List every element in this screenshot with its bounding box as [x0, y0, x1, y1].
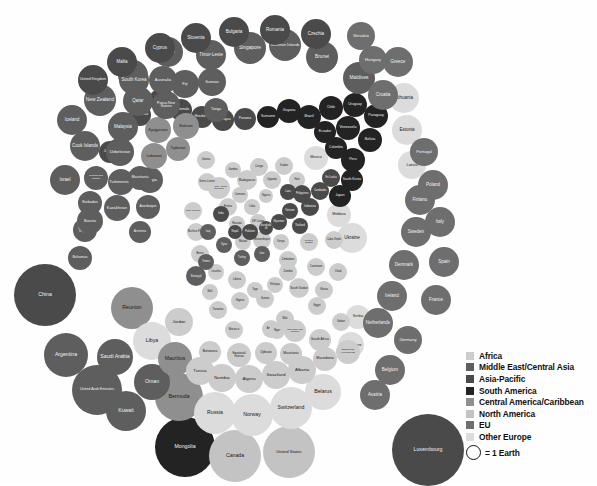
bubble-united-kingdom[interactable]: United Kingdom: [78, 65, 108, 95]
bubble-south-korea[interactable]: South Korea: [341, 169, 363, 191]
bubble-papua-new-guinea[interactable]: Papua New Guinea: [152, 91, 180, 119]
bubble-zimbabwe[interactable]: Zimbabwe: [279, 251, 297, 269]
bubble-armenia[interactable]: Armenia: [129, 221, 151, 243]
bubble-mali[interactable]: Mali: [202, 284, 218, 300]
bubble-spain[interactable]: Spain: [429, 247, 459, 277]
bubble-swaziland[interactable]: Swaziland: [262, 361, 290, 389]
bubble-cyprus[interactable]: Cyprus: [145, 33, 175, 63]
bubble-botswana[interactable]: Botswana: [199, 341, 221, 363]
bubble-austria[interactable]: Austria: [360, 380, 390, 410]
bubble-kenya[interactable]: Kenya: [273, 234, 289, 250]
bubble-chad[interactable]: Chad: [329, 263, 347, 281]
bubble-slovakia[interactable]: Slovakia: [347, 22, 375, 50]
bubble-norway[interactable]: Norway: [231, 394, 273, 436]
bubble-malta[interactable]: Malta: [107, 47, 137, 77]
bubble-cabo-verde[interactable]: Cabo Verde: [325, 231, 343, 249]
bubble-mauritania[interactable]: Mauritania: [280, 343, 302, 365]
bubble-portugal[interactable]: Portugal: [410, 138, 438, 166]
bubble-morocco[interactable]: Morocco: [225, 321, 243, 339]
bubble-congo[interactable]: Congo: [250, 158, 268, 176]
bubble-panama[interactable]: Panama: [234, 108, 256, 130]
bubble-thailand[interactable]: Thailand: [292, 218, 308, 234]
bubble-guinea[interactable]: Guinea: [256, 290, 274, 308]
bubble-algeria[interactable]: Algeria: [235, 365, 263, 393]
bubble-tanzania[interactable]: Tanzania: [209, 301, 227, 319]
bubble-guyana[interactable]: Guyana: [277, 99, 301, 123]
bubble-kazakhstan[interactable]: Kazakhstan: [104, 195, 130, 221]
bubble-saudi-arabia[interactable]: Saudi Arabia: [97, 339, 133, 375]
legend-row-eu[interactable]: EU: [466, 420, 594, 432]
bubble-gabon[interactable]: Gabon: [332, 313, 350, 331]
bubble-bahrain[interactable]: Bahrain: [173, 113, 199, 139]
bubble-egypt[interactable]: Egypt: [308, 297, 326, 315]
bubble-israel[interactable]: Israel: [50, 165, 80, 195]
legend-row-otheur[interactable]: Other Europe: [466, 431, 594, 443]
bubble-south-africa[interactable]: South Africa: [309, 329, 331, 351]
bubble-sao-tome-and-principe[interactable]: Sao Tome and Principe: [284, 320, 306, 342]
bubble-china[interactable]: China: [14, 264, 76, 326]
bubble-chile[interactable]: Chile: [319, 96, 343, 120]
bubble-samoa[interactable]: Samoa: [198, 68, 226, 96]
bubble-guinea-bissau[interactable]: Guinea-Bissau: [300, 233, 318, 251]
bubble-tonga[interactable]: Tonga: [204, 98, 228, 122]
bubble-uganda[interactable]: Uganda: [263, 171, 281, 189]
bubble-vietnam[interactable]: Vietnam: [282, 203, 298, 219]
bubble-slovenia[interactable]: Slovenia: [181, 23, 211, 53]
bubble-cuba[interactable]: Cuba: [244, 199, 260, 215]
bubble-djibouti[interactable]: Djibouti: [255, 342, 277, 364]
bubble-poland[interactable]: Poland: [418, 170, 448, 200]
bubble-bolivia[interactable]: Bolivia: [358, 128, 382, 152]
bubble-cook-islands[interactable]: Cook Islands: [70, 131, 100, 161]
bubble-namibia[interactable]: Namibia: [208, 364, 236, 392]
bubble-canada[interactable]: Canada: [209, 430, 261, 482]
bubble-uruguay[interactable]: Uruguay: [343, 93, 367, 117]
bubble-russia[interactable]: Russia: [194, 392, 236, 434]
legend-row-asiapac[interactable]: Asia-Pacific: [466, 373, 594, 385]
bubble-gambia[interactable]: Gambia: [225, 162, 241, 178]
bubble-france[interactable]: France: [421, 285, 451, 315]
bubble-luxembourg[interactable]: Luxembourg: [392, 414, 464, 486]
bubble-cameroon[interactable]: Cameroon: [307, 258, 325, 276]
bubble-lebanon[interactable]: Lebanon: [141, 143, 167, 169]
bubble-ethiopia[interactable]: Ethiopia: [267, 277, 283, 293]
bubble-yemen[interactable]: Yemen: [198, 254, 214, 270]
bubble-ireland[interactable]: Ireland: [377, 281, 407, 311]
legend-row-centam[interactable]: Central America/Caribbean: [466, 396, 594, 408]
bubble-guinea[interactable]: Guinea: [197, 151, 215, 169]
bubble-greece[interactable]: Greece: [383, 47, 413, 77]
bubble-kuwait[interactable]: Kuwait: [106, 391, 146, 431]
bubble-liberia[interactable]: Liberia: [228, 271, 246, 289]
bubble-niger[interactable]: Niger: [269, 323, 285, 339]
legend-row-northam[interactable]: North America: [466, 408, 594, 420]
bubble-cote-d-ivoire[interactable]: Cote d'Ivoire: [184, 202, 202, 220]
bubble-italy[interactable]: Italy: [425, 207, 455, 237]
bubble-iran[interactable]: Iran: [254, 246, 270, 262]
bubble-azerbaijan[interactable]: Azerbaijan: [136, 195, 160, 219]
bubble-south-sudan[interactable]: South Sudan: [289, 278, 309, 298]
bubble-netherlands[interactable]: Netherlands: [363, 308, 393, 338]
bubble-tajikistan[interactable]: Tajikistan: [166, 137, 190, 161]
bubble-pakistan[interactable]: Pakistan: [242, 224, 258, 240]
bubble-syria[interactable]: Syria: [216, 237, 232, 253]
bubble-czechia[interactable]: Czechia: [301, 19, 331, 49]
bubble-nigeria[interactable]: Nigeria: [231, 292, 249, 310]
bubble-sierra-leone[interactable]: Sierra Leone: [198, 173, 216, 191]
bubble-laos[interactable]: Laos: [280, 184, 296, 200]
bubble-iraq[interactable]: Iraq: [200, 224, 216, 240]
bubble-india[interactable]: India: [213, 206, 229, 222]
bubble-hungary[interactable]: Hungary: [359, 46, 387, 74]
bubble-kyrgyzstan[interactable]: Kyrgyzstan: [145, 117, 171, 143]
bubble-venezuela[interactable]: Venezuela: [336, 116, 360, 140]
bubble-mauritania[interactable]: Mauritania: [128, 166, 152, 190]
bubble-equatorial-guinea[interactable]: Equatorial Guinea: [227, 343, 251, 367]
legend-row-mecasia[interactable]: Middle East/Central Asia: [466, 362, 594, 374]
bubble-uzbekistan[interactable]: Uzbekistan: [106, 138, 134, 166]
bubble-germany[interactable]: Germany: [394, 326, 422, 354]
bubble-australia[interactable]: Australia: [149, 66, 177, 94]
bubble-iceland[interactable]: Iceland: [57, 105, 87, 135]
bubble-bosnia-and-herzegovina[interactable]: Bosnia and Herzegovina: [336, 340, 360, 364]
bubble-switzerland[interactable]: Switzerland: [270, 387, 312, 429]
bubble-malaysia[interactable]: Malaysia: [108, 112, 138, 142]
bubble-croatia[interactable]: Croatia: [368, 80, 398, 110]
bubble-trinidad-and-tobago[interactable]: Trinidad and Tobago: [84, 166, 108, 190]
